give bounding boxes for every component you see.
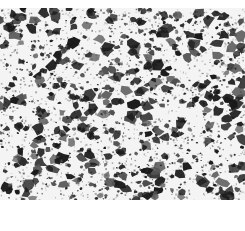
bottom-margin xyxy=(0,202,245,231)
speckle-texture xyxy=(0,8,245,200)
micrograph-image xyxy=(0,8,245,200)
image-frame xyxy=(0,0,245,231)
